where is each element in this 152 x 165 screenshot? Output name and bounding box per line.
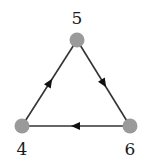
arrowhead-icon	[71, 122, 80, 130]
node-4	[15, 119, 30, 134]
nodes	[15, 33, 138, 134]
node-6	[123, 119, 138, 134]
arrowheads	[44, 77, 110, 130]
edges	[22, 40, 130, 126]
arrowhead-icon	[98, 77, 110, 89]
node-labels: 546	[17, 8, 136, 159]
node-label-4: 4	[17, 139, 28, 159]
node-label-5: 5	[72, 8, 83, 28]
directed-cycle-diagram: 546	[0, 0, 152, 165]
node-label-6: 6	[125, 139, 136, 159]
arrowhead-icon	[44, 77, 56, 89]
node-5	[70, 33, 85, 48]
